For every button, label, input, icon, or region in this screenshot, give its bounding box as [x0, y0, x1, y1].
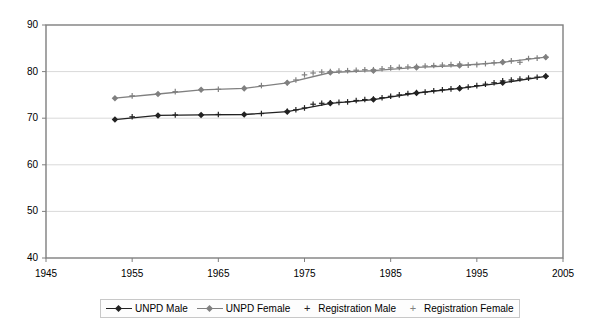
data-point-marker — [241, 85, 248, 92]
legend-item[interactable]: UNPD Female — [197, 303, 290, 314]
line-diamond-marker-icon — [197, 303, 223, 314]
legend-item[interactable]: +Registration Male — [299, 303, 396, 314]
data-point-marker — [198, 112, 205, 119]
line-diamond-marker-icon — [106, 303, 132, 314]
legend-item[interactable]: UNPD Male — [106, 303, 188, 314]
legend-item-label: UNPD Male — [135, 303, 188, 314]
data-point-marker — [241, 111, 248, 118]
legend-line — [197, 308, 223, 309]
series-line-unpd-female — [115, 57, 546, 98]
chart-legend: UNPD MaleUNPD Female+Registration Male+R… — [100, 299, 520, 318]
plot-border — [46, 25, 563, 258]
plus-marker-icon: + — [299, 303, 315, 314]
plus-marker-icon: + — [405, 303, 421, 314]
data-point-marker — [155, 91, 162, 98]
data-point-marker — [198, 87, 205, 94]
legend-item[interactable]: +Registration Female — [405, 303, 513, 314]
legend-item-label: Registration Female — [424, 303, 513, 314]
series-line-unpd-male — [115, 76, 546, 119]
legend-diamond — [206, 305, 213, 312]
life-expectancy-chart: 405060708090 194519551965197519851995200… — [0, 0, 609, 330]
data-point-marker — [155, 112, 162, 119]
legend-line — [106, 308, 132, 309]
legend-item-label: UNPD Female — [226, 303, 290, 314]
data-point-marker — [112, 95, 119, 102]
data-point-marker — [112, 116, 119, 123]
legend-diamond — [115, 305, 122, 312]
legend-item-label: Registration Male — [318, 303, 396, 314]
plot-area — [0, 0, 609, 330]
